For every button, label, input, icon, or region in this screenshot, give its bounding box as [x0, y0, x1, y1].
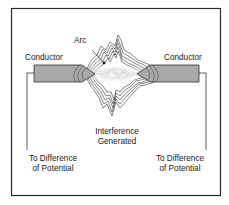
left-lead-label-line1: To Difference	[18, 154, 88, 164]
left-conductor	[34, 65, 95, 82]
left-lead-wire	[27, 73, 34, 150]
right-lead-label: To Difference of Potential	[145, 154, 215, 174]
right-lead-label-line1: To Difference	[145, 154, 215, 164]
right-conductor	[137, 65, 199, 82]
left-lead-label: To Difference of Potential	[18, 154, 88, 174]
right-lead-wire	[199, 73, 206, 150]
left-lead-label-line2: of Potential	[18, 164, 88, 174]
arc-label: Arc	[74, 36, 86, 46]
right-lead-label-line2: of Potential	[145, 164, 215, 174]
right-conductor-label: Conductor	[164, 53, 202, 63]
arc-interference-diagram	[0, 0, 229, 205]
left-conductor-label: Conductor	[25, 53, 63, 63]
interference-label-line1: Interference	[82, 127, 152, 137]
arc-pointer-dot	[103, 62, 106, 65]
interference-label: Interference Generated	[82, 127, 152, 147]
interference-label-line2: Generated	[82, 137, 152, 147]
